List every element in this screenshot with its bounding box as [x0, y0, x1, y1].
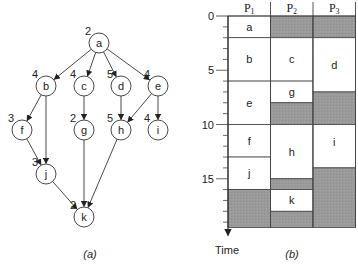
- node-weight: 4: [144, 68, 150, 80]
- idle-slot: [228, 190, 271, 228]
- idle-slot: [271, 179, 314, 190]
- node-weight: 4: [144, 112, 150, 124]
- task-label: c: [289, 53, 295, 65]
- edge-b-f: [27, 95, 41, 121]
- node-i: i4: [144, 112, 168, 140]
- task-slot-a: a: [228, 16, 271, 38]
- node-weight: 4: [70, 68, 76, 80]
- node-weight: 3: [8, 112, 14, 124]
- figure-canvas: a2b4c4d5e4f3g2h5i4j3k2 (a) abefjcghkdiP1…: [0, 0, 358, 269]
- node-label: h: [118, 124, 124, 136]
- idle-slot: [271, 16, 314, 38]
- task-label: k: [289, 194, 295, 206]
- task-slot-d: d: [313, 38, 356, 92]
- idle-slot: [271, 211, 314, 227]
- node-f: f3: [8, 112, 32, 140]
- node-label: e: [155, 80, 161, 92]
- node-label: b: [43, 80, 49, 92]
- task-label: h: [289, 146, 295, 158]
- task-slot-i: i: [313, 125, 356, 168]
- task-slot-g: g: [271, 81, 314, 103]
- task-label: d: [331, 59, 337, 71]
- node-weight: 3: [32, 156, 38, 168]
- task-slot-f: f: [228, 125, 271, 158]
- node-weight: 5: [107, 68, 113, 80]
- node-d: d5: [107, 68, 131, 96]
- axis-tick-label: 15: [202, 173, 214, 185]
- node-label: i: [157, 124, 159, 136]
- node-label: d: [118, 80, 124, 92]
- task-slot-e: e: [228, 81, 271, 124]
- node-j: j3: [32, 156, 56, 184]
- task-slot-k: k: [271, 190, 314, 212]
- node-label: a: [96, 37, 103, 49]
- caption-b: (b): [285, 248, 299, 260]
- task-label: g: [289, 86, 295, 98]
- task-slot-h: h: [271, 125, 314, 179]
- idle-slot: [313, 16, 356, 38]
- task-label: a: [246, 21, 253, 33]
- axis-tick-label: 0: [208, 10, 214, 22]
- task-slot-c: c: [271, 38, 314, 81]
- task-label: j: [247, 167, 250, 179]
- node-weight: 2: [70, 199, 76, 211]
- node-label: j: [44, 168, 47, 180]
- node-weight: 4: [32, 68, 38, 80]
- processor-header-3: P3: [329, 1, 340, 16]
- node-a: a2: [85, 25, 109, 53]
- axis-tick-label: 10: [202, 119, 214, 131]
- gantt-chart: abefjcghkdiP1P2P3051015Time: [202, 1, 356, 256]
- idle-slot: [313, 92, 356, 125]
- processor-header-2: P2: [286, 1, 297, 16]
- node-e: e4: [144, 68, 168, 96]
- task-label: e: [246, 97, 252, 109]
- node-weight: 2: [85, 25, 91, 37]
- node-g: g2: [70, 112, 94, 140]
- axis-tick-label: 5: [208, 64, 214, 76]
- time-axis-label: Time: [215, 244, 239, 256]
- node-h: h5: [107, 112, 131, 140]
- idle-slot: [313, 168, 356, 228]
- task-label: i: [333, 136, 335, 148]
- processor-header-1: P1: [244, 1, 255, 16]
- task-slot-b: b: [228, 38, 271, 81]
- node-k: k2: [70, 199, 94, 227]
- task-graph-nodes: a2b4c4d5e4f3g2h5i4j3k2: [8, 25, 168, 227]
- caption-a: (a): [83, 248, 97, 260]
- edge-a-c: [87, 52, 95, 76]
- edge-h-k: [88, 139, 117, 207]
- node-b: b4: [32, 68, 56, 96]
- node-c: c4: [70, 68, 94, 96]
- node-weight: 5: [107, 112, 113, 124]
- idle-slot: [271, 103, 314, 125]
- node-label: c: [81, 80, 87, 92]
- node-label: k: [81, 211, 87, 223]
- node-weight: 2: [70, 112, 76, 124]
- task-label: b: [246, 53, 252, 65]
- task-slot-j: j: [228, 157, 271, 190]
- node-label: g: [81, 124, 87, 136]
